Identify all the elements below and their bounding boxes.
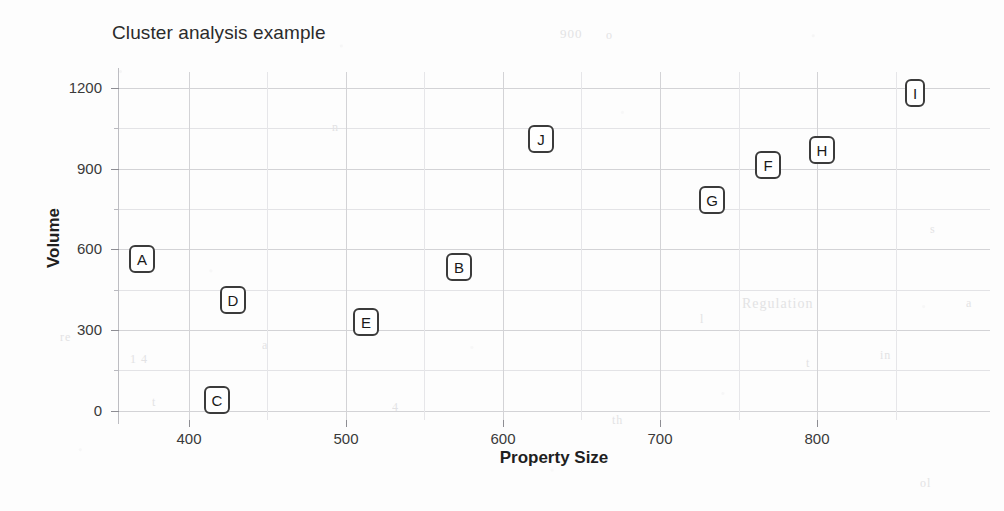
y-tick-label: 1200 — [46, 79, 102, 96]
chart-page: 900ore1 4anRegulationltint4thsaol Cluste… — [0, 0, 1004, 511]
data-point-h: H — [809, 136, 835, 164]
gridline-vertical — [660, 72, 661, 420]
gridline-vertical-minor — [267, 72, 268, 420]
gridline-horizontal — [118, 249, 990, 250]
gridline-horizontal-minor — [118, 370, 990, 371]
y-tick-mark — [111, 249, 119, 250]
x-tick-mark — [189, 420, 190, 427]
gridline-vertical-minor — [896, 72, 897, 420]
gridline-horizontal-minor — [118, 128, 990, 129]
gridline-horizontal — [118, 88, 990, 89]
gridline-vertical-minor — [424, 72, 425, 420]
y-tick-label: 900 — [46, 160, 102, 177]
gridline-vertical — [346, 72, 347, 420]
y-tick-mark-minor — [114, 290, 119, 291]
gridline-vertical — [503, 72, 504, 420]
gridline-vertical-minor — [739, 72, 740, 420]
gridline-horizontal — [118, 330, 990, 331]
gridline-horizontal-minor — [118, 290, 990, 291]
scatter-plot: Cluster analysis example 03006009001200 … — [0, 0, 1004, 511]
x-tick-label: 500 — [316, 430, 376, 447]
data-point-f: F — [755, 151, 781, 179]
y-tick-mark — [111, 330, 119, 331]
x-tick-mark — [346, 420, 347, 427]
y-tick-mark — [111, 88, 119, 89]
gridline-vertical — [817, 72, 818, 420]
x-axis-label: Property Size — [118, 448, 990, 468]
y-tick-label: 0 — [46, 402, 102, 419]
x-tick-mark — [660, 420, 661, 427]
x-tick-label: 700 — [630, 430, 690, 447]
gridline-horizontal — [118, 169, 990, 170]
y-tick-mark-minor — [114, 209, 119, 210]
data-point-e: E — [353, 308, 379, 336]
gridline-vertical-minor — [581, 72, 582, 420]
y-tick-mark-minor — [114, 370, 119, 371]
data-point-a: A — [129, 245, 155, 273]
y-tick-label: 300 — [46, 321, 102, 338]
gridline-horizontal — [118, 411, 990, 412]
y-tick-mark — [111, 411, 119, 412]
gridline-horizontal-minor — [118, 209, 990, 210]
data-point-i: I — [905, 79, 925, 107]
x-tick-label: 600 — [473, 430, 533, 447]
gridline-vertical — [189, 72, 190, 420]
data-point-d: D — [220, 286, 246, 314]
x-tick-label: 400 — [159, 430, 219, 447]
y-axis-label: Volume — [44, 178, 64, 298]
x-tick-label: 800 — [787, 430, 847, 447]
chart-title: Cluster analysis example — [112, 22, 326, 44]
x-tick-mark — [503, 420, 504, 427]
data-point-c: C — [204, 386, 230, 414]
x-tick-mark — [817, 420, 818, 427]
data-point-j: J — [528, 125, 554, 153]
data-point-b: B — [446, 253, 472, 281]
y-tick-mark — [111, 169, 119, 170]
data-point-g: G — [699, 186, 725, 214]
y-tick-mark-minor — [114, 128, 119, 129]
